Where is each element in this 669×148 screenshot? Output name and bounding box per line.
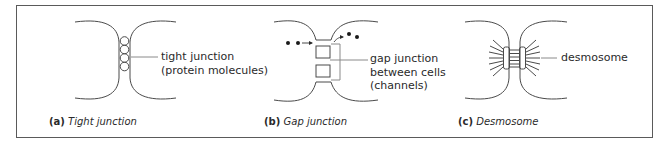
label-line: (channels) (370, 79, 446, 93)
left-cell-membrane (465, 21, 509, 99)
channel-box-lower (316, 65, 330, 77)
caption-key: (c) (458, 116, 473, 127)
channel-box-upper (316, 46, 330, 58)
right-filaments (526, 40, 540, 76)
panel-c-desmosome-drawing (465, 21, 567, 99)
protein-molecule-circles (120, 37, 129, 71)
label-line: gap junction (370, 52, 446, 66)
panel-b-gap-junction-drawing (274, 21, 378, 101)
gap-junction-label: gap junction between cells (channels) (370, 52, 446, 93)
left-cell-membrane-top (274, 21, 316, 40)
label-line: tight junction (161, 50, 268, 64)
caption-key: (a) (49, 116, 65, 127)
desmosome-label: desmosome (561, 51, 628, 65)
molecule-dots (286, 32, 359, 45)
label-line: (protein molecules) (161, 64, 268, 78)
caption-title: Desmosome (476, 116, 538, 127)
channel-bracket (331, 44, 340, 80)
tight-junction-label: tight junction (protein molecules) (161, 50, 268, 77)
caption-title: Tight junction (68, 116, 137, 127)
right-cell-membrane (520, 21, 567, 99)
caption-a: (a) Tight junction (49, 116, 137, 127)
left-filaments (489, 40, 503, 76)
intercellular-connectors (510, 50, 520, 67)
label-line: between cells (370, 66, 446, 80)
caption-b: (b) Gap junction (264, 116, 347, 127)
caption-key: (b) (264, 116, 280, 127)
left-cell-membrane (75, 21, 119, 99)
label-line: desmosome (561, 51, 628, 65)
left-cell-membrane-bottom (274, 82, 316, 101)
right-cell-membrane-top (331, 21, 378, 40)
caption-title: Gap junction (284, 116, 348, 127)
caption-c: (c) Desmosome (458, 116, 538, 127)
